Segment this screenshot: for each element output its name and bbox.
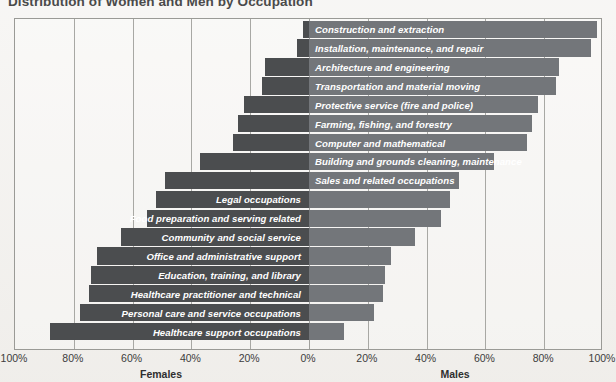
bar-segment-male[interactable]	[309, 285, 383, 302]
x-axis-tick: 0%	[300, 352, 315, 364]
bar-segment-female[interactable]	[91, 266, 309, 283]
bar-segment-female[interactable]	[89, 285, 310, 302]
bar-segment-male[interactable]	[309, 39, 591, 56]
bar-segment-male[interactable]	[309, 304, 374, 321]
bar-segment-female[interactable]	[121, 228, 309, 245]
bar-segment-female[interactable]	[50, 323, 309, 340]
bar-segment-female[interactable]	[233, 134, 309, 151]
bar-segment-male[interactable]	[309, 153, 494, 170]
page-title: Distribution of Women and Men by Occupat…	[8, 0, 313, 9]
bar-row[interactable]: Personal care and service occupations	[15, 304, 601, 321]
bar-segment-female[interactable]	[165, 172, 309, 189]
bar-row[interactable]: Office and administrative support	[15, 247, 601, 264]
x-axis-tick: 60%	[474, 352, 495, 364]
bar-segment-male[interactable]	[309, 323, 344, 340]
x-axis-tick: 80%	[533, 352, 554, 364]
bar-segment-male[interactable]	[309, 77, 556, 94]
bar-segment-male[interactable]	[309, 266, 385, 283]
bar-segment-female[interactable]	[97, 247, 309, 264]
bar-row[interactable]: Legal occupations	[15, 191, 601, 208]
x-axis-tick: 60%	[121, 352, 142, 364]
bar-segment-male[interactable]	[309, 96, 538, 113]
bar-row[interactable]: Healthcare practitioner and technical	[15, 285, 601, 302]
plot-area: Construction and extractionInstallation,…	[14, 18, 602, 350]
bar-segment-female[interactable]	[244, 96, 309, 113]
x-axis-tick: 80%	[62, 352, 83, 364]
bar-segment-female[interactable]	[238, 115, 309, 132]
bar-row[interactable]: Education, training, and library	[15, 266, 601, 283]
x-axis-captions: Females Males	[0, 368, 616, 382]
bar-segment-female[interactable]	[297, 39, 309, 56]
bar-segment-male[interactable]	[309, 210, 441, 227]
bar-segment-male[interactable]	[309, 58, 559, 75]
bar-row[interactable]: Building and grounds cleaning, maintenan…	[15, 153, 601, 170]
bar-row[interactable]: Computer and mathematical	[15, 134, 601, 151]
bar-segment-female[interactable]	[262, 77, 309, 94]
bar-row[interactable]: Transportation and material moving	[15, 77, 601, 94]
axis-caption-females: Females	[140, 368, 182, 380]
bar-row[interactable]: Construction and extraction	[15, 21, 601, 38]
axis-caption-males: Males	[440, 368, 469, 380]
bar-segment-male[interactable]	[309, 115, 532, 132]
bar-segment-female[interactable]	[200, 153, 309, 170]
x-axis-tick: 40%	[415, 352, 436, 364]
bar-segment-male[interactable]	[309, 191, 450, 208]
bar-row[interactable]: Sales and related occupations	[15, 172, 601, 189]
bar-segment-female[interactable]	[156, 191, 309, 208]
x-axis-tick: 20%	[239, 352, 260, 364]
x-axis-ticks: 100%80%60%40%20%0%20%40%60%80%100%	[0, 352, 616, 368]
bar-segment-male[interactable]	[309, 247, 391, 264]
bar-segment-male[interactable]	[309, 134, 527, 151]
bar-rows: Construction and extractionInstallation,…	[15, 19, 601, 349]
bar-row[interactable]: Food preparation and serving related	[15, 210, 601, 227]
x-axis-tick: 40%	[180, 352, 201, 364]
bar-row[interactable]: Healthcare support occupations	[15, 323, 601, 340]
bar-segment-female[interactable]	[265, 58, 309, 75]
x-axis-tick: 100%	[1, 352, 28, 364]
x-axis-tick: 20%	[356, 352, 377, 364]
bar-row[interactable]: Farming, fishing, and forestry	[15, 115, 601, 132]
bar-segment-female[interactable]	[147, 210, 309, 227]
bar-row[interactable]: Architecture and engineering	[15, 58, 601, 75]
bar-row[interactable]: Community and social service	[15, 228, 601, 245]
bar-segment-male[interactable]	[309, 172, 459, 189]
bar-segment-male[interactable]	[309, 228, 415, 245]
occupation-distribution-chart: Distribution of Women and Men by Occupat…	[0, 0, 616, 382]
x-axis-tick: 100%	[589, 352, 616, 364]
bar-segment-female[interactable]	[80, 304, 309, 321]
bar-row[interactable]: Installation, maintenance, and repair	[15, 39, 601, 56]
bar-segment-male[interactable]	[309, 21, 597, 38]
bar-row[interactable]: Protective service (fire and police)	[15, 96, 601, 113]
